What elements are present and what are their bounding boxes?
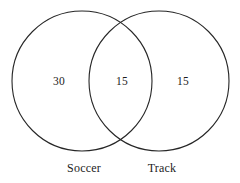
- region-count-track-only: 15: [177, 76, 189, 88]
- set-circle-soccer: [12, 11, 152, 151]
- venn-diagram-figure: 30 15 15 Soccer Track: [0, 0, 240, 183]
- region-count-soccer-only: 30: [53, 76, 65, 88]
- venn-circles-graphic: [0, 0, 240, 183]
- set-caption-track: Track: [148, 162, 177, 174]
- set-circle-track: [89, 11, 229, 151]
- set-caption-soccer: Soccer: [67, 162, 101, 174]
- region-count-intersection: 15: [116, 76, 128, 88]
